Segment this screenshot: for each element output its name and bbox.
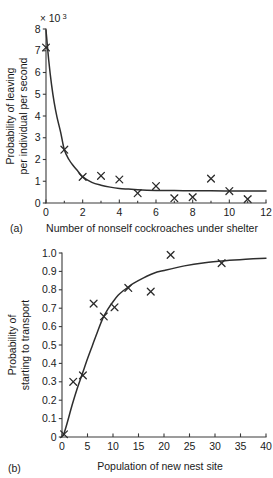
y-tick-label: 0 <box>51 431 57 443</box>
data-point-marker <box>100 313 107 320</box>
data-point-marker <box>111 304 118 311</box>
x-axis-label: Population of new nest site <box>97 460 223 472</box>
y-axis-label-line1: Probability of leaving <box>4 67 16 164</box>
panel-b-axes <box>59 253 266 437</box>
panel-label: (a) <box>10 222 23 234</box>
data-point-marker <box>167 251 174 258</box>
x-tick-label: 15 <box>133 440 145 452</box>
y-tick-label: 7 <box>35 44 41 56</box>
y-axis-label: Probability of leavingper individual per… <box>4 57 29 174</box>
y-tick-label: 5 <box>35 88 41 100</box>
x-tick-label: 40 <box>260 440 272 452</box>
panel-b-fit-curve <box>64 258 266 435</box>
y-tick-label: 0.7 <box>42 302 57 314</box>
data-point-marker <box>208 175 215 182</box>
data-point-marker <box>79 174 86 181</box>
figure-container: 012345678024681012Number of nonself cock… <box>0 0 273 478</box>
y-tick-label: 1 <box>35 175 41 187</box>
y-tick-label: 0.3 <box>42 375 57 387</box>
y-axis-multiplier: × 10 3 <box>40 12 67 25</box>
data-point-marker <box>153 183 160 190</box>
y-tick-label: 0.5 <box>42 339 57 351</box>
x-tick-label: 12 <box>260 206 272 218</box>
x-tick-label: 6 <box>153 206 159 218</box>
fit-curve-path <box>46 30 266 191</box>
multiplier-times-symbol: × <box>40 13 49 24</box>
x-tick-label: 4 <box>116 206 122 218</box>
multiplier-exponent: 3 <box>60 12 66 21</box>
y-tick-label: 0 <box>35 197 41 209</box>
data-point-marker <box>134 190 141 197</box>
multiplier-base: 10 <box>49 12 61 24</box>
y-tick-label: 0.2 <box>42 394 57 406</box>
y-tick-label: 1.0 <box>42 247 57 259</box>
panel-b-plot: 00.10.20.30.40.50.60.70.80.91.0051015202… <box>0 238 273 478</box>
x-tick-label: 0 <box>59 440 65 452</box>
panel-b: 00.10.20.30.40.50.60.70.80.91.0051015202… <box>0 238 273 478</box>
y-axis-label-line2: per individual per second <box>17 57 29 174</box>
y-tick-label: 6 <box>35 66 41 78</box>
panel-label: (b) <box>8 462 21 474</box>
x-tick-label: 10 <box>223 206 235 218</box>
y-axis-label-line2: starting to transport <box>19 300 31 391</box>
data-point-marker <box>116 176 123 183</box>
panel-b-data-points <box>61 251 225 437</box>
panel-a-data-points <box>43 44 251 202</box>
y-tick-label: 0.6 <box>42 320 57 332</box>
y-tick-label: 8 <box>35 23 41 35</box>
panel-a-plot: 012345678024681012Number of nonself cock… <box>0 0 273 238</box>
data-point-marker <box>171 195 178 202</box>
y-axis-label: Probability ofstarting to transport <box>6 300 31 391</box>
data-point-marker <box>147 288 154 295</box>
x-tick-label: 30 <box>209 440 221 452</box>
x-tick-label: 35 <box>235 440 247 452</box>
y-tick-label: 4 <box>35 110 41 122</box>
x-tick-label: 2 <box>80 206 86 218</box>
y-tick-label: 0.9 <box>42 265 57 277</box>
fit-curve-path <box>64 258 266 435</box>
y-tick-label: 0.4 <box>42 357 57 369</box>
x-tick-label: 10 <box>107 440 119 452</box>
x-axis-label: Number of nonself cockroaches under shel… <box>46 222 258 234</box>
y-axis-label-line1: Probability of <box>6 315 18 376</box>
y-tick-label: 0.1 <box>42 412 57 424</box>
panel-a-axes <box>43 29 266 203</box>
data-point-marker <box>70 378 77 385</box>
x-tick-label: 20 <box>158 440 170 452</box>
y-tick-label: 2 <box>35 153 41 165</box>
x-tick-label: 0 <box>43 206 49 218</box>
data-point-marker <box>90 300 97 307</box>
x-tick-label: 5 <box>85 440 91 452</box>
panel-a-fit-curve <box>46 30 266 191</box>
y-tick-label: 3 <box>35 131 41 143</box>
x-tick-label: 8 <box>190 206 196 218</box>
y-tick-label: 0.8 <box>42 283 57 295</box>
x-tick-label: 25 <box>184 440 196 452</box>
data-point-marker <box>98 172 105 179</box>
panel-a: 012345678024681012Number of nonself cock… <box>0 0 273 238</box>
